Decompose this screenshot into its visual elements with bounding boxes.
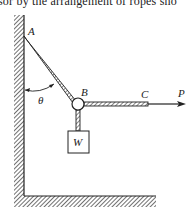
label-b: B xyxy=(81,86,88,98)
rope-bw xyxy=(76,110,80,131)
label-p: P xyxy=(177,87,185,99)
label-c: C xyxy=(141,88,149,100)
angle-theta-arc-icon xyxy=(25,84,54,92)
wall xyxy=(14,15,24,207)
label-a: A xyxy=(27,25,35,37)
rope-ab xyxy=(24,36,76,103)
force-p-arrow-icon xyxy=(148,101,186,107)
label-theta: θ xyxy=(38,94,44,106)
floor xyxy=(14,196,156,207)
rope-bc xyxy=(84,102,148,106)
label-w: W xyxy=(73,136,83,148)
ring-b xyxy=(72,98,84,110)
statics-diagram: A B C P W θ xyxy=(0,0,194,215)
